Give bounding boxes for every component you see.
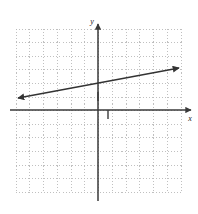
coordinate-plane: y x — [0, 0, 198, 214]
x-axis-label: x — [187, 114, 192, 123]
y-axis-label: y — [89, 17, 94, 26]
graph-figure: y x — [0, 0, 198, 214]
axis-ticks — [98, 92, 108, 119]
